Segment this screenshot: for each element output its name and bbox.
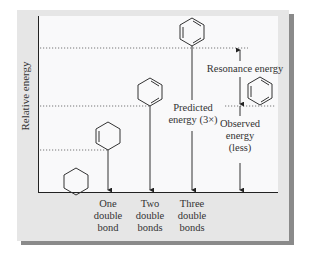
predicted-energy-label: Predicted energy (3×) <box>167 102 219 126</box>
observed-line-1: Observed <box>214 118 266 130</box>
category-label-line: One <box>88 198 128 210</box>
observed-line-2: energy <box>214 130 266 142</box>
category-label-line: double <box>88 210 128 222</box>
category-label-line: bonds <box>130 222 170 234</box>
cyclohexatriene-icon <box>180 18 204 46</box>
y-axis-label: Relative energy <box>19 51 31 141</box>
category-label-line: Three <box>172 198 212 210</box>
predicted-line-1: Predicted <box>167 102 219 114</box>
category-one-double-bond: One double bond <box>88 198 128 234</box>
cyclohexadiene-icon <box>138 78 162 106</box>
category-label-line: bond <box>88 222 128 234</box>
observed-energy-label: Observed energy (less) <box>214 118 266 154</box>
category-label-line: bonds <box>172 222 212 234</box>
category-label-line: double <box>130 210 170 222</box>
category-label-line: Two <box>130 198 170 210</box>
predicted-line-2: energy (3×) <box>167 114 219 126</box>
cyclohexene-icon <box>96 122 120 150</box>
cyclohexane-icon <box>64 168 88 195</box>
category-three-double-bonds: Three double bonds <box>172 198 212 234</box>
observed-line-3: (less) <box>214 142 266 154</box>
category-label-line: double <box>172 210 212 222</box>
category-two-double-bonds: Two double bonds <box>130 198 170 234</box>
benzene-icon <box>248 77 272 105</box>
resonance-energy-label: Resonance energy <box>203 63 287 75</box>
